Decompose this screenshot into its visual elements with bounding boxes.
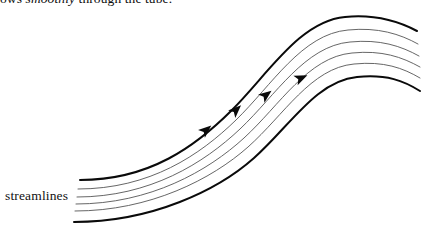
interior-1	[78, 29, 418, 189]
streamline-group	[74, 16, 420, 222]
flow-arrow-group	[198, 70, 309, 137]
interior-3	[76, 52, 420, 204]
arrow-4	[293, 70, 309, 85]
interior-4	[75, 63, 420, 211]
arrow-2	[228, 101, 245, 118]
figure-page: ows smoothly through the tube. streamlin…	[0, 0, 422, 227]
streamlines-label: streamlines	[5, 188, 68, 204]
boundary-top	[80, 16, 417, 180]
boundary-bottom	[74, 76, 420, 222]
